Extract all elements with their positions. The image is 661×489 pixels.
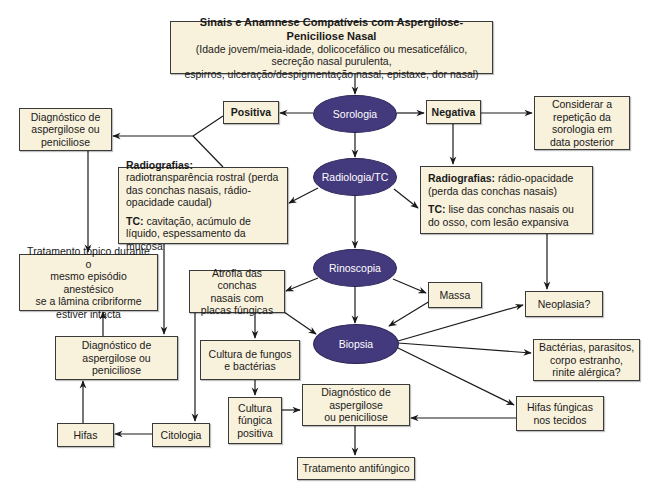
label-tc: TC: [428,203,446,215]
text-line: ou peniciliose [324,411,388,424]
text-line: Cultura [238,402,272,415]
label-radiografias: Radiografias: [126,159,193,171]
text-line: Tratamento tópico durante o [24,245,153,270]
text-line: Atrofia das conchas [194,267,280,292]
text-line: aspergilose ou [82,352,150,365]
text-line: corpo estranho, [550,354,623,367]
text-radiografias: radiotransparência rostral (perda das co… [126,171,278,208]
box-cultura-fungica-positiva: Cultura fúngica positiva [228,397,282,444]
text-line: Diagnóstico de [31,111,100,124]
node-rinoscopia: Rinoscopia [313,249,397,287]
node-sorologia: Sorologia [313,95,397,133]
node-biopsia: Biopsia [313,324,399,364]
text-line: mesmo episódio anestésico [24,270,153,295]
text-line: Hifas fúngicas [527,401,593,414]
node-radiologia-tc: Radiologia/TC [313,158,397,196]
box-cultura-fungos-bacterias: Cultura de fungos e bactérias [200,340,300,380]
box-considerar-repeticao: Considerar a repetição da sorologia em d… [534,96,630,150]
text-line: e bactérias [224,360,275,373]
text-line: aspergilose [329,399,383,412]
text-tc: lise das conchas nasais ou do osso, com … [428,203,574,228]
box-tratamento-antifungico: Tratamento antifúngico [297,457,415,480]
box-radiografias-positiva: Radiografias: radiotransparência rostral… [118,167,288,244]
box-diagnostico-top: Diagnóstico de aspergilose ou penicilios… [19,108,112,151]
text-line: Diagnóstico de [82,339,151,352]
label-radiografias: Radiografias: [428,172,495,184]
text-line: positiva [237,427,273,440]
box-neoplasia: Neoplasia? [525,291,603,317]
text-line: fúngica [238,414,272,427]
box-hifas: Hifas [57,423,114,447]
header-box-signs-and-history: Sinais e Anamnese Compatíveis com Asperg… [170,21,493,74]
text-line: Considerar a [552,98,612,111]
text-line: Bactérias, parasitos, [539,341,634,354]
box-radiografias-negativa: Radiografias: rádio-opacidade (perda das… [420,166,593,234]
text-line: Diagnóstico de [321,386,390,399]
box-massa: Massa [428,282,482,308]
box-citologia: Citologia [152,423,210,447]
text-line: Cultura de fungos [209,348,292,361]
text-line: estiver intacta [56,308,121,321]
text-line: sorologia em [552,123,612,136]
text-line: nos tecidos [533,414,586,427]
header-line-1: (Idade jovem/meia-idade, dolicocefálico … [175,43,488,68]
text-line: peniciliose [92,364,141,377]
box-diagnostico-center: Diagnóstico de aspergilose ou penicilios… [302,384,410,426]
box-diagnostico-mid: Diagnóstico de aspergilose ou penicilios… [55,336,178,380]
box-hifas-fungicas-tecidos: Hifas fúngicas nos tecidos [516,396,604,431]
box-bacterias-parasitos: Bactérias, parasitos, corpo estranho, ri… [533,339,640,381]
header-line-2: espirros, ulceração/despigmentação nasal… [184,68,478,81]
box-positiva: Positiva [223,101,279,124]
text-line: aspergilose ou [31,123,99,136]
text-line: repetição da [553,111,611,124]
text-line: peniciliose [41,136,90,149]
box-atrofia-conchas: Atrofia das conchas nasais com placas fú… [189,270,285,313]
box-tratamento-topico: Tratamento tópico durante o mesmo episód… [19,254,158,311]
text-line: rinite alérgica? [552,366,620,379]
text-line: data posterior [550,136,614,149]
text-line: nasais com [210,292,263,305]
header-title: Sinais e Anamnese Compatíveis com Asperg… [175,15,488,43]
label-tc: TC: [126,215,144,227]
text-line: placas fúngicas [201,304,273,317]
text-line: se a lâmina cribriforme [35,295,141,308]
box-negativa: Negativa [426,100,481,124]
